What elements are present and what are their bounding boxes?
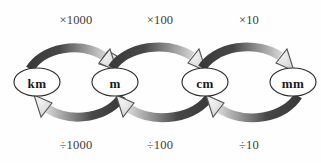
divide-label-cm-m: ÷100 <box>147 138 173 152</box>
node-m-label: m <box>109 76 120 91</box>
multiply-arrow-km-to-m <box>30 48 104 69</box>
multiply-label-m-cm: ×100 <box>147 13 174 27</box>
node-cm[interactable]: cm <box>182 68 228 96</box>
node-km[interactable]: km <box>14 68 60 96</box>
node-cm-label: cm <box>196 76 213 91</box>
multiply-label-km-m: ×1000 <box>59 13 92 27</box>
divide-label-m-km: ÷1000 <box>60 138 93 152</box>
divide-arrow-m-to-km <box>48 96 122 117</box>
node-mm[interactable]: mm <box>270 68 316 96</box>
multiply-arrow-m-to-cm <box>112 47 192 68</box>
divide-label-mm-cm: ÷10 <box>239 138 259 152</box>
unit-conversion-diagram: km m cm mm ×1000 ×100 ×10 ÷1000 ÷100 ÷10 <box>0 0 321 163</box>
node-km-label: km <box>28 76 47 91</box>
diagram-canvas: km m cm mm ×1000 ×100 ×10 ÷1000 ÷100 ÷10 <box>0 0 321 163</box>
divide-arrow-cm-to-m <box>130 96 210 118</box>
multiply-label-cm-mm: ×10 <box>239 13 259 27</box>
divide-arrow-mm-to-cm <box>220 96 298 118</box>
node-m[interactable]: m <box>92 68 138 96</box>
multiply-arrow-cm-to-mm <box>202 47 280 68</box>
node-mm-label: mm <box>282 76 304 91</box>
